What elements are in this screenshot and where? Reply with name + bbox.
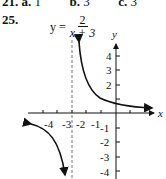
y-tick-2: 2	[106, 79, 112, 91]
y-tick-neg2: -2	[100, 136, 109, 148]
y-tick-neg1: -1	[100, 122, 109, 134]
y-tick-neg4: -4	[100, 166, 110, 178]
y-tick-neg3: -3	[100, 151, 110, 163]
y-axis-label: y	[111, 28, 117, 40]
y-tick-3: 3	[106, 64, 112, 76]
curve-left-branch	[31, 124, 65, 175]
x-tick-neg1: -1	[91, 118, 100, 130]
x-tick-neg3: -3	[62, 118, 72, 130]
x-axis-label: x	[157, 107, 163, 119]
graph: x y -4 -3 -2 -1 4 3 2 -1 -2 -3 -4	[0, 0, 166, 179]
y-tick-4: 4	[106, 50, 112, 62]
x-tick-neg2: -2	[76, 118, 85, 130]
x-tick-neg4: -4	[44, 118, 54, 130]
